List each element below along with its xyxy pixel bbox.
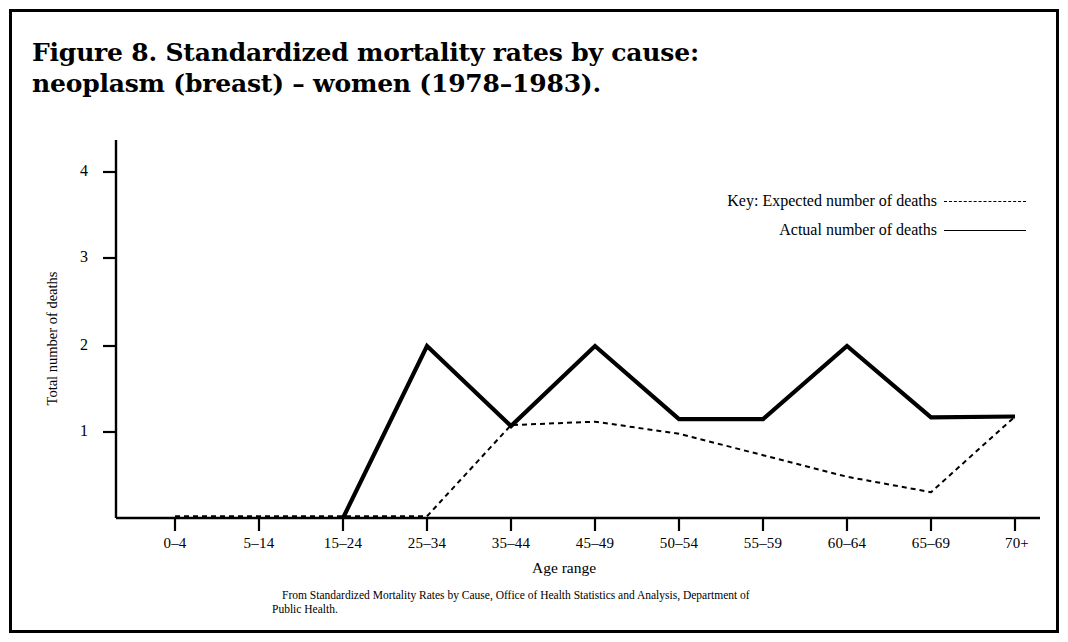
x-tick-marks: [175, 518, 1015, 531]
series-line-expected-deaths: [175, 417, 1015, 517]
figure-page: Figure 8. Standardized mortality rates b…: [0, 0, 1068, 642]
y-tick-label-4: 4: [58, 162, 88, 180]
figure-source-line-2: Public Health.: [272, 602, 882, 616]
x-tick-label-2: 15–24: [298, 535, 388, 552]
figure-source-note: From Standardized Mortality Rates by Cau…: [272, 588, 882, 617]
x-tick-label-1: 5–14: [214, 535, 304, 552]
series-line-actual-deaths: [343, 346, 1015, 518]
x-tick-label-6: 50–54: [634, 535, 724, 552]
legend-swatch-dashed-icon: [944, 196, 1026, 206]
legend-entry-actual: Actual number of deaths: [676, 215, 1026, 244]
y-tick-label-2: 2: [58, 336, 88, 354]
x-tick-label-8: 60–64: [802, 535, 892, 552]
legend-label-actual: Actual number of deaths: [779, 221, 937, 239]
x-tick-label-4: 35–44: [466, 535, 556, 552]
chart-legend: Key: Expected number of deaths Actual nu…: [676, 186, 1026, 244]
x-tick-label-9: 65–69: [886, 535, 976, 552]
x-tick-label-10: 70+: [972, 535, 1062, 552]
legend-label-expected: Key: Expected number of deaths: [727, 192, 937, 210]
y-tick-label-3: 3: [58, 248, 88, 266]
x-tick-label-7: 55–59: [718, 535, 808, 552]
y-tick-label-1: 1: [58, 422, 88, 440]
x-axis-title: Age range: [484, 559, 644, 577]
legend-swatch-solid-icon: [944, 225, 1026, 235]
figure-source-line-1: From Standardized Mortality Rates by Cau…: [272, 588, 882, 602]
x-tick-label-3: 25–34: [382, 535, 472, 552]
x-tick-label-0: 0–4: [130, 535, 220, 552]
x-tick-label-5: 45–49: [550, 535, 640, 552]
legend-entry-expected: Key: Expected number of deaths: [676, 186, 1026, 215]
